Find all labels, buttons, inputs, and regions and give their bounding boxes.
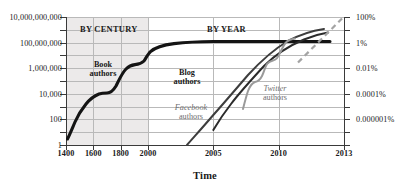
y-tick-right <box>344 94 350 95</box>
y-axis-right-label: 0.000001% <box>356 115 394 124</box>
x-axis-label: 2000 <box>140 149 157 158</box>
y-axis-right-label: 100% <box>356 13 376 22</box>
x-axis-label: 2013 <box>336 149 353 158</box>
label-blog-authors: Blog authors <box>166 68 208 87</box>
label-facebook-authors-line1: Facebook <box>163 103 219 112</box>
label-book-authors: Book authors <box>80 60 126 79</box>
label-twitter-authors-line1: Twitter <box>252 84 298 93</box>
x-axis-label: 2005 <box>205 149 222 158</box>
label-facebook-authors-line2: authors <box>163 112 219 121</box>
y-tick-right <box>344 68 350 69</box>
label-blog-authors-line2: authors <box>166 77 208 86</box>
y-tick-right <box>344 119 350 120</box>
y-axis-right-label: 0.0001% <box>356 89 386 98</box>
y-tick-right <box>344 81 350 82</box>
x-axis <box>66 145 344 146</box>
y-axis-left-label: 100,000,000 <box>20 38 62 47</box>
y-tick-right <box>344 30 350 31</box>
zone-label-by-century: BY CENTURY <box>80 25 138 34</box>
label-twitter-authors-line2: authors <box>252 93 298 102</box>
y-tick-right <box>344 55 350 56</box>
y-tick-right <box>344 17 350 18</box>
zone-label-by-year: BY YEAR <box>207 25 246 34</box>
y-axis-left-label: 100 <box>49 115 62 124</box>
x-axis-title: Time <box>0 170 410 181</box>
label-facebook-authors: Facebook authors <box>163 103 219 122</box>
y-tick-right <box>344 43 350 44</box>
chart-container: BY CENTURY BY YEAR Book authors Blog aut… <box>0 0 410 194</box>
x-axis-label: 1600 <box>85 149 102 158</box>
y-tick-right <box>344 107 350 108</box>
y-tick-right <box>344 132 350 133</box>
label-book-authors-line2: authors <box>80 69 126 78</box>
x-axis-label: 1800 <box>112 149 129 158</box>
y-axis-left-label: 1,000,000 <box>28 64 62 73</box>
series-blog-authors-line <box>213 33 328 130</box>
x-axis-label: 2010 <box>270 149 287 158</box>
y-axis-left-label: 10,000 <box>39 89 62 98</box>
y-axis-right-label: 0.01% <box>356 64 378 73</box>
y-axis-left-label: 10,000,000,000 <box>9 13 62 22</box>
y-axis-right-label: 1% <box>356 38 367 47</box>
label-book-authors-line1: Book <box>80 60 126 69</box>
label-blog-authors-line1: Blog <box>166 68 208 77</box>
x-axis-label: 1400 <box>58 149 75 158</box>
label-twitter-authors: Twitter authors <box>252 84 298 103</box>
